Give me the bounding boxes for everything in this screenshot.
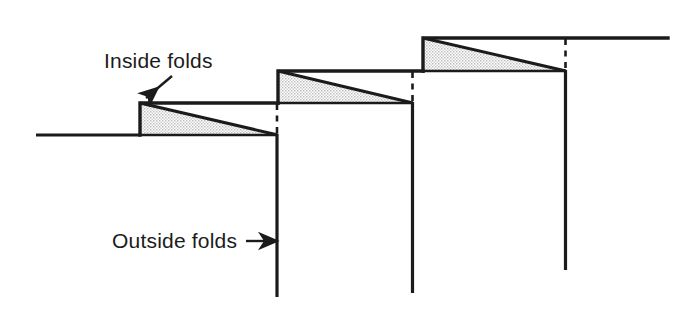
step-2 <box>278 71 423 293</box>
inside-folds-label: Inside folds <box>104 49 213 72</box>
fold-diagram: Inside folds Outside folds <box>0 0 695 322</box>
inside-folds-arrow <box>146 76 172 98</box>
figure-canvas: Inside folds Outside folds <box>0 0 695 322</box>
step-3 <box>423 38 668 270</box>
step-1 <box>36 103 278 297</box>
outside-folds-label: Outside folds <box>112 229 237 252</box>
